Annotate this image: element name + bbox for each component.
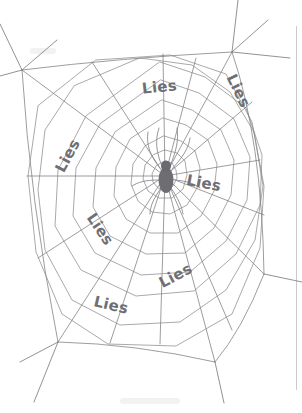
anchor-threads bbox=[0, 0, 302, 403]
lies-label-top: Lies bbox=[141, 76, 178, 98]
lies-label-left: Lies bbox=[51, 136, 83, 175]
lies-label-lower-right: Lies bbox=[156, 259, 195, 291]
web-spirals bbox=[28, 55, 264, 346]
lies-label-top-right: Lies bbox=[223, 71, 255, 110]
web-frame bbox=[22, 52, 264, 362]
lies-label-bottom: Lies bbox=[92, 292, 130, 317]
spider-web-drawing: Lies Lies Lies Lies Lies Lies Lies bbox=[0, 0, 302, 413]
illustration-canvas: Lies Lies Lies Lies Lies Lies Lies bbox=[0, 0, 302, 413]
lies-label-right: Lies bbox=[185, 171, 223, 195]
web-radials bbox=[22, 52, 264, 362]
lies-label-lower-left: Lies bbox=[83, 210, 118, 249]
